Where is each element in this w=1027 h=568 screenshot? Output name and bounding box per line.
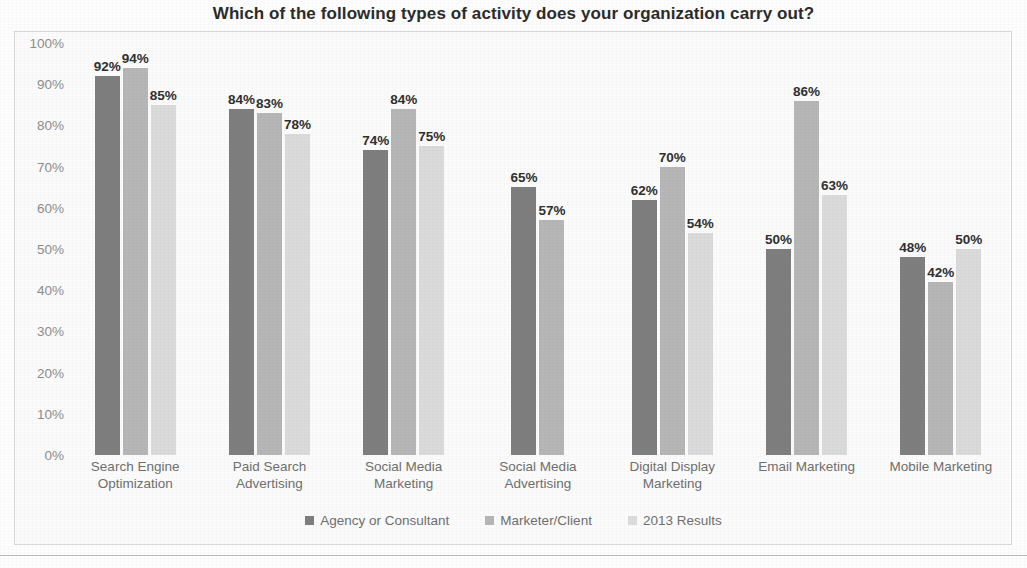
y-axis-tick-label: 70%: [4, 159, 64, 174]
bar-value-label: 63%: [807, 178, 863, 193]
bar: [928, 282, 953, 455]
bar-value-label: 70%: [644, 150, 700, 165]
bar: [285, 134, 310, 455]
legend-label: Marketer/Client: [500, 513, 592, 528]
bar-group: 74%84%75%: [341, 43, 475, 455]
bar-value-label: 48%: [885, 240, 941, 255]
legend-label: 2013 Results: [643, 513, 722, 528]
x-axis-category-label: Social MediaMarketing: [329, 458, 479, 492]
legend-item[interactable]: Agency or Consultant: [305, 513, 449, 528]
legend-swatch-icon: [305, 516, 314, 525]
plot-area: 92%94%85%84%83%78%74%84%75%65%57%62%70%5…: [72, 43, 1012, 455]
bar-group: 50%86%63%: [743, 43, 877, 455]
y-axis-tick-label: 80%: [4, 118, 64, 133]
legend-item[interactable]: Marketer/Client: [485, 513, 592, 528]
bar: [95, 76, 120, 455]
y-axis-tick-label: 30%: [4, 324, 64, 339]
y-axis-tick-label: 60%: [4, 200, 64, 215]
bar-value-label: 84%: [376, 92, 432, 107]
x-axis-category-label: Paid SearchAdvertising: [194, 458, 344, 492]
x-axis-category-line: Search Engine: [60, 458, 210, 475]
y-axis-tick-label: 10%: [4, 406, 64, 421]
bar-value-label: 54%: [672, 216, 728, 231]
bar-group: 65%57%: [475, 43, 609, 455]
y-axis-tick-label: 20%: [4, 365, 64, 380]
legend-swatch-icon: [628, 516, 637, 525]
bar: [539, 220, 564, 455]
bar: [794, 101, 819, 455]
x-axis-category-label: Digital DisplayMarketing: [597, 458, 747, 492]
chart-legend: Agency or ConsultantMarketer/Client2013 …: [0, 513, 1027, 528]
x-axis-category-line: Advertising: [194, 475, 344, 492]
bar-group: 48%42%50%: [878, 43, 1012, 455]
bar: [900, 257, 925, 455]
y-axis-tick-label: 50%: [4, 242, 64, 257]
x-axis-category-line: Optimization: [60, 475, 210, 492]
x-axis-category-line: Paid Search: [194, 458, 344, 475]
x-axis-category-label: Search EngineOptimization: [60, 458, 210, 492]
x-axis-category-label: Email Marketing: [732, 458, 882, 475]
y-axis-tick-label: 0%: [4, 448, 64, 463]
bar-group: 92%94%85%: [72, 43, 206, 455]
x-axis-category-line: Social Media: [463, 458, 613, 475]
bar: [123, 68, 148, 455]
bar: [419, 146, 444, 455]
bar: [229, 109, 254, 455]
y-axis-tick-label: 100%: [4, 36, 64, 51]
page-divider: [0, 555, 1027, 556]
y-axis: 100%90%80%70%60%50%40%30%20%10%0%: [0, 43, 64, 455]
x-axis-labels: Search EngineOptimizationPaid SearchAdve…: [72, 458, 1012, 504]
x-axis-category-label: Mobile Marketing: [866, 458, 1016, 475]
bar: [632, 200, 657, 455]
bar-value-label: 57%: [524, 203, 580, 218]
bar-value-label: 65%: [496, 170, 552, 185]
bar-group: 84%83%78%: [206, 43, 340, 455]
legend-label: Agency or Consultant: [320, 513, 449, 528]
bar: [822, 195, 847, 455]
bar: [257, 113, 282, 455]
bar-group: 62%70%54%: [609, 43, 743, 455]
x-axis-category-line: Email Marketing: [732, 458, 882, 475]
x-axis-category-line: Social Media: [329, 458, 479, 475]
bar: [956, 249, 981, 455]
bar-value-label: 86%: [779, 84, 835, 99]
scanned-page: Which of the following types of activity…: [0, 0, 1027, 568]
bar: [766, 249, 791, 455]
legend-swatch-icon: [485, 516, 494, 525]
bar: [688, 233, 713, 455]
y-axis-tick-label: 40%: [4, 283, 64, 298]
x-axis-category-line: Marketing: [329, 475, 479, 492]
bar-value-label: 78%: [269, 117, 325, 132]
x-axis-category-line: Mobile Marketing: [866, 458, 1016, 475]
bar-value-label: 85%: [135, 88, 191, 103]
bar-value-label: 75%: [404, 129, 460, 144]
y-axis-tick-label: 90%: [4, 77, 64, 92]
x-axis-category-line: Advertising: [463, 475, 613, 492]
bar: [151, 105, 176, 455]
bar-value-label: 50%: [941, 232, 997, 247]
bar: [363, 150, 388, 455]
legend-item[interactable]: 2013 Results: [628, 513, 722, 528]
chart-title: Which of the following types of activity…: [0, 4, 1027, 24]
bar-value-label: 83%: [241, 96, 297, 111]
bar: [511, 187, 536, 455]
bar: [391, 109, 416, 455]
bar-value-label: 94%: [107, 51, 163, 66]
x-axis-category-line: Digital Display: [597, 458, 747, 475]
bar: [660, 167, 685, 455]
x-axis-category-label: Social MediaAdvertising: [463, 458, 613, 492]
x-axis-category-line: Marketing: [597, 475, 747, 492]
